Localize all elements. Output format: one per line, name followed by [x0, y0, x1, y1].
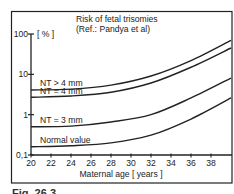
figure-caption: Fig. 26.3 — [12, 188, 56, 194]
x-tick-label: 22 — [46, 158, 56, 168]
x-tick-label: 24 — [66, 158, 76, 168]
risk-chart: Risk of fetal trisomies (Ref.: Pandya et… — [0, 0, 234, 194]
chart-subtitle: (Ref.: Pandya et al) — [76, 24, 150, 34]
x-tick-label: 36 — [186, 158, 196, 168]
x-tick-label: 34 — [166, 158, 176, 168]
y-unit-label: [ % ] — [37, 29, 54, 39]
chart-title: Risk of fetal trisomies — [76, 14, 158, 24]
x-tick-label: 38 — [206, 158, 216, 168]
series-label: NT = 4 mm — [40, 86, 83, 96]
x-tick-label: 30 — [126, 158, 136, 168]
y-tick-label: 10 — [18, 69, 28, 79]
x-axis-label: Maternal age [ years ] — [79, 169, 162, 179]
x-tick-label: 20 — [26, 158, 36, 168]
x-tick-label: 32 — [146, 158, 156, 168]
series-label: Normal value — [40, 135, 91, 145]
x-tick-label: 28 — [106, 158, 116, 168]
x-tick-label: 26 — [86, 158, 96, 168]
y-tick-label: 100 — [14, 29, 29, 39]
y-tick-label: 1 — [23, 110, 28, 120]
series-label: NT = 3 mm — [40, 115, 83, 125]
